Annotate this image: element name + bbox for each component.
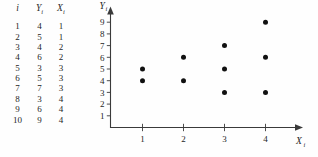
table-row: 3 4 2 xyxy=(6,42,72,52)
scatter-svg: 9 8 7 6 5 4 3 2 1 xyxy=(96,0,318,157)
header-subscript-x: i xyxy=(63,8,65,15)
x-tick-label: 2 xyxy=(181,134,186,144)
table-row: 2 5 1 xyxy=(6,32,72,42)
cell-y: 5 xyxy=(29,73,50,83)
table-row: 10 9 4 xyxy=(6,115,72,125)
cell-x: 3 xyxy=(50,84,72,94)
x-tick-label: 3 xyxy=(222,134,227,144)
cell-i: 4 xyxy=(6,53,29,63)
y-tick-label: 6 xyxy=(100,53,105,63)
cell-x: 3 xyxy=(50,73,72,83)
column-header-i: i xyxy=(6,4,29,22)
data-point xyxy=(222,43,227,48)
table-row: 8 3 4 xyxy=(6,94,72,104)
x-axis-title-text: X xyxy=(295,136,303,146)
table-row: 1 4 1 xyxy=(6,22,72,32)
table-header-row: i Yi Xi xyxy=(6,4,72,22)
column-header-y: Yi xyxy=(29,4,50,22)
cell-x: 1 xyxy=(50,32,72,42)
data-point xyxy=(263,90,268,95)
x-tick-label: 4 xyxy=(263,134,268,144)
y-axis-arrow-icon xyxy=(107,7,114,15)
cell-y: 4 xyxy=(29,22,50,32)
y-axis-title: Y i xyxy=(100,1,108,12)
table-row: 9 6 4 xyxy=(6,105,72,115)
data-table: i Yi Xi 1 4 1 2 5 1 3 4 xyxy=(6,4,90,125)
cell-i: 1 xyxy=(6,22,29,32)
data-point xyxy=(140,67,145,72)
y-axis-title-subscript: i xyxy=(106,5,108,12)
y-tick-label: 9 xyxy=(100,17,105,27)
data-point xyxy=(263,20,268,25)
figure-root: i Yi Xi 1 4 1 2 5 1 3 4 xyxy=(0,0,318,157)
cell-i: 8 xyxy=(6,94,29,104)
data-point xyxy=(181,55,186,60)
y-axis xyxy=(107,7,114,129)
cell-y: 7 xyxy=(29,84,50,94)
x-axis-arrow-icon xyxy=(295,124,303,131)
cell-i: 5 xyxy=(6,63,29,73)
table-row: 6 5 3 xyxy=(6,73,72,83)
x-axis-title-subscript: i xyxy=(304,141,306,148)
table-header: i Yi Xi xyxy=(6,4,72,22)
x-axis-ticks: 1 2 3 4 xyxy=(140,124,268,144)
cell-i: 9 xyxy=(6,105,29,115)
y-tick-label: 1 xyxy=(100,111,105,121)
data-points xyxy=(140,20,268,95)
cell-y: 4 xyxy=(29,42,50,52)
cell-y: 9 xyxy=(29,115,50,125)
y-axis-ticks: 9 8 7 6 5 4 3 2 1 xyxy=(100,17,111,121)
cell-i: 10 xyxy=(6,115,29,125)
data-point xyxy=(222,67,227,72)
y-tick-label: 8 xyxy=(100,29,105,39)
cell-x: 2 xyxy=(50,53,72,63)
cell-i: 3 xyxy=(6,42,29,52)
x-axis-title: X i xyxy=(295,136,306,148)
cell-y: 5 xyxy=(29,32,50,42)
y-tick-label: 7 xyxy=(100,41,105,51)
table-row: 4 6 2 xyxy=(6,53,72,63)
data-point xyxy=(181,78,186,83)
cell-y: 6 xyxy=(29,53,50,63)
cell-y: 6 xyxy=(29,105,50,115)
cell-y: 3 xyxy=(29,63,50,73)
table-row: 5 3 3 xyxy=(6,63,72,73)
data-point xyxy=(140,78,145,83)
y-tick-label: 3 xyxy=(100,88,105,98)
cell-i: 2 xyxy=(6,32,29,42)
column-header-x: Xi xyxy=(50,4,72,22)
cell-x: 4 xyxy=(50,115,72,125)
cell-i: 7 xyxy=(6,84,29,94)
table-body: 1 4 1 2 5 1 3 4 2 4 6 2 xyxy=(6,22,72,126)
data-point xyxy=(222,90,227,95)
y-tick-label: 5 xyxy=(100,64,105,74)
y-tick-label: 2 xyxy=(100,99,105,109)
observations-table: i Yi Xi 1 4 1 2 5 1 3 4 xyxy=(6,4,72,125)
cell-i: 6 xyxy=(6,73,29,83)
table-row: 7 7 3 xyxy=(6,84,72,94)
cell-y: 3 xyxy=(29,94,50,104)
cell-x: 2 xyxy=(50,42,72,52)
x-tick-label: 1 xyxy=(140,134,145,144)
cell-x: 4 xyxy=(50,94,72,104)
cell-x: 4 xyxy=(50,105,72,115)
cell-x: 1 xyxy=(50,22,72,32)
header-subscript-y: i xyxy=(41,8,43,15)
data-point xyxy=(263,55,268,60)
cell-x: 3 xyxy=(50,63,72,73)
scatter-plot: 9 8 7 6 5 4 3 2 1 xyxy=(96,0,318,157)
x-axis xyxy=(111,124,304,131)
y-tick-label: 4 xyxy=(100,76,105,86)
